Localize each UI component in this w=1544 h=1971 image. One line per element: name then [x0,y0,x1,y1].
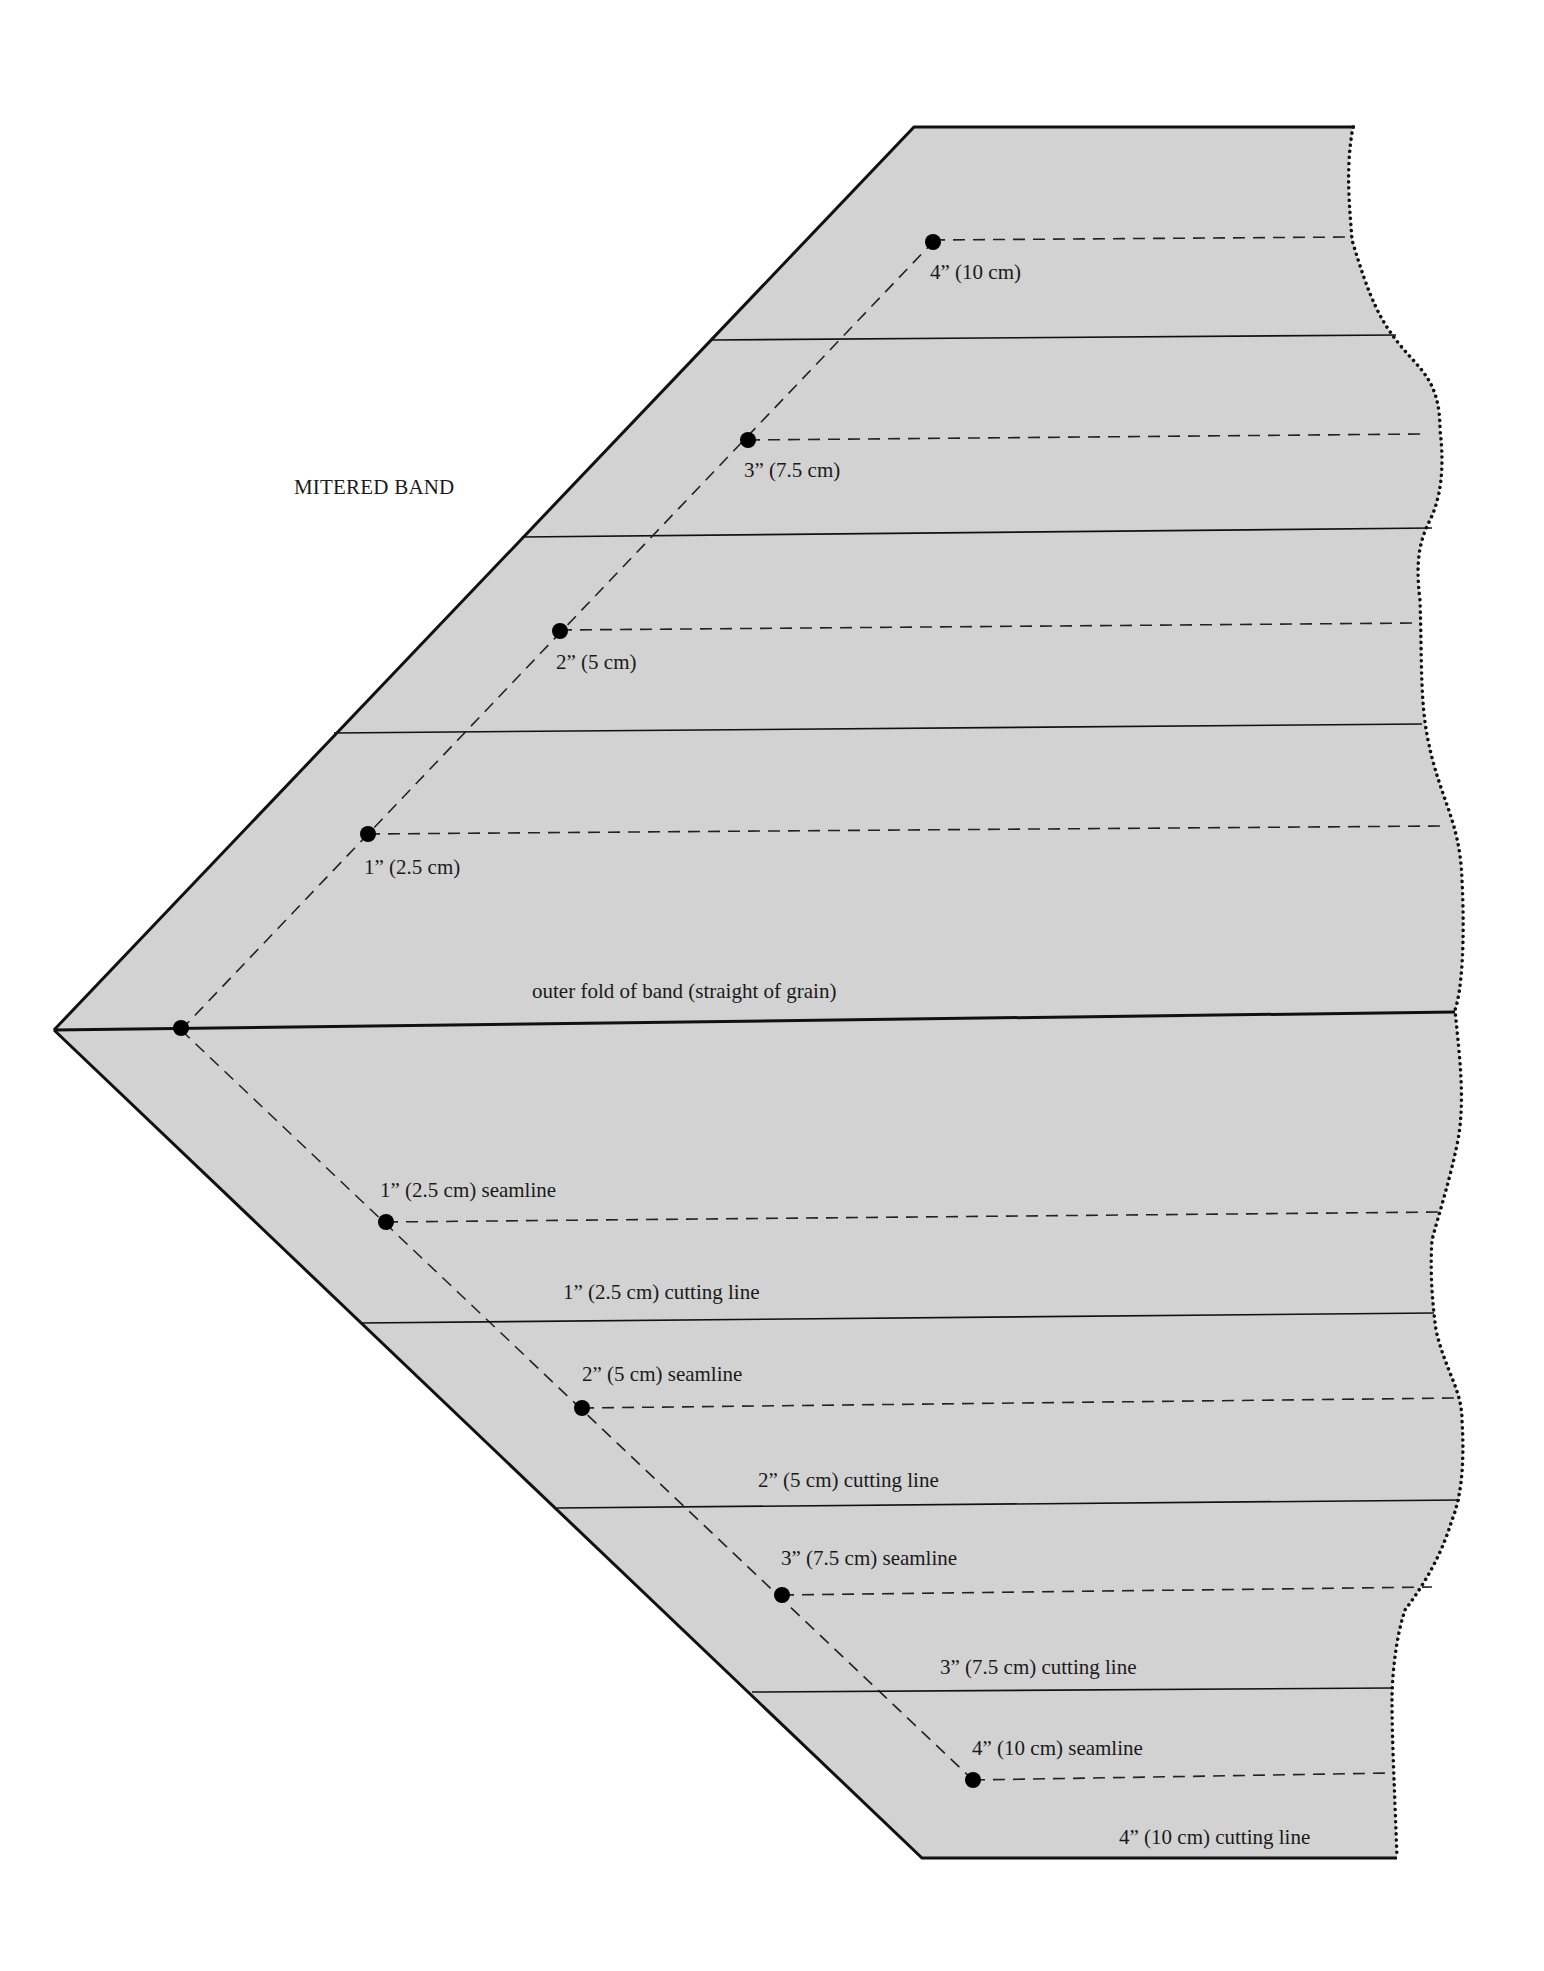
lower-label-4in-seamline: 4” (10 cm) seamline [972,1738,1143,1759]
lower-label-2in-seamline: 2” (5 cm) seamline [582,1364,742,1385]
fold-label: outer fold of band (straight of grain) [532,981,836,1002]
marker-dot-upper-4in [925,234,941,250]
marker-dot-lower-1in [378,1214,394,1230]
lower-label-4in-cutting: 4” (10 cm) cutting line [1119,1827,1310,1848]
marker-dot-upper-1in [360,826,376,842]
diagram-title: MITERED BAND [294,477,454,498]
lower-label-2in-cutting: 2” (5 cm) cutting line [758,1470,939,1491]
upper-label-4in: 4” (10 cm) [930,262,1021,283]
marker-dot-lower-3in [774,1587,790,1603]
upper-label-1in: 1” (2.5 cm) [364,857,460,878]
lower-label-3in-cutting: 3” (7.5 cm) cutting line [940,1657,1137,1678]
lower-label-3in-seamline: 3” (7.5 cm) seamline [781,1548,957,1569]
lower-label-1in-cutting: 1” (2.5 cm) cutting line [563,1282,760,1303]
upper-label-2in: 2” (5 cm) [556,652,636,673]
marker-dot-lower-4in [965,1772,981,1788]
marker-dot-lower-2in [574,1400,590,1416]
marker-dot-upper-2in [552,623,568,639]
marker-dot-fold [173,1020,189,1036]
upper-label-3in: 3” (7.5 cm) [744,460,840,481]
marker-dot-upper-3in [740,432,756,448]
lower-label-1in-seamline: 1” (2.5 cm) seamline [380,1180,556,1201]
